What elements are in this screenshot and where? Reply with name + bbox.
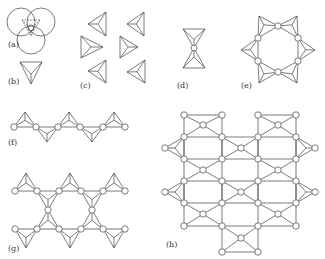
atom-node — [293, 112, 299, 118]
panel-g-ladder — [12, 173, 128, 248]
sphere-bottom — [17, 26, 45, 54]
atom-node — [295, 58, 301, 64]
label-g: (g) — [8, 245, 19, 253]
atom-node — [12, 226, 18, 232]
atom-node — [122, 124, 128, 130]
label-d: (d) — [177, 82, 188, 90]
tetrahedron — [103, 112, 125, 127]
atom-node — [219, 156, 225, 162]
atom-node — [219, 200, 225, 206]
atom-node — [219, 134, 225, 140]
atom-node — [238, 145, 244, 151]
atom-node — [200, 167, 206, 173]
panel-h-sheet — [162, 112, 318, 255]
atom-node — [122, 188, 128, 194]
tetrahedron — [103, 229, 125, 248]
atom-node — [33, 124, 39, 130]
atom-node — [275, 211, 281, 217]
atom-node — [78, 226, 84, 232]
tetrahedron — [88, 12, 106, 36]
atom-node — [122, 226, 128, 232]
tetrahedron — [81, 36, 103, 58]
atom-node — [255, 200, 261, 206]
tetrahedron — [127, 12, 144, 36]
atom-node — [45, 207, 51, 213]
label-f: (f) — [8, 139, 17, 147]
tetrahedron — [120, 36, 138, 58]
atom-node — [295, 35, 301, 41]
tetrahedron — [14, 112, 36, 127]
atom-node — [293, 156, 299, 162]
atom-node — [293, 134, 299, 140]
tetrahedron — [80, 127, 103, 142]
atom-node — [293, 178, 299, 184]
atom-node — [100, 188, 106, 194]
atom-node — [255, 223, 261, 229]
tetrahedra-diagram — [0, 0, 325, 259]
atom-node — [181, 178, 187, 184]
atom-node — [100, 124, 106, 130]
atom-node — [255, 112, 261, 118]
atom-node — [56, 226, 62, 232]
atom-node — [312, 189, 318, 195]
atom-node — [219, 223, 225, 229]
atom-node — [275, 122, 281, 128]
atom-node — [181, 156, 187, 162]
atom-node — [181, 223, 187, 229]
atom-node — [293, 200, 299, 206]
tetrahedron — [103, 173, 125, 191]
atom-node — [255, 58, 261, 64]
atom-node — [34, 226, 40, 232]
atom-node — [162, 145, 168, 151]
atom-node — [255, 178, 261, 184]
atom-node — [77, 124, 83, 130]
atom-node — [238, 235, 244, 241]
atom-node — [200, 122, 206, 128]
panel-c-isolated-tetrahedra — [81, 12, 145, 83]
tetrahedron — [58, 112, 80, 127]
panel-e-six-ring — [241, 16, 315, 83]
panel-f-chain — [11, 112, 128, 142]
atom-node — [293, 223, 299, 229]
atom-node — [181, 134, 187, 140]
label-e: (e) — [241, 82, 252, 90]
tetrahedron — [59, 173, 81, 191]
panel-b-tetrahedron — [20, 62, 42, 84]
tetrahedron — [36, 127, 58, 142]
label-b: (b) — [8, 78, 19, 86]
atom-node — [56, 188, 62, 194]
atom-node — [200, 211, 206, 217]
atom-node — [255, 134, 261, 140]
atom-node — [238, 189, 244, 195]
atom-node — [275, 23, 281, 29]
tetrahedron — [59, 229, 81, 248]
atom-node — [78, 188, 84, 194]
tetrahedron — [241, 38, 258, 61]
atom-node — [275, 167, 281, 173]
atom-node — [255, 35, 261, 41]
tetrahedron — [20, 62, 42, 84]
atom-node — [100, 226, 106, 232]
atom-node — [219, 178, 225, 184]
atom-node — [12, 188, 18, 194]
atom-node — [312, 145, 318, 151]
atom-node — [255, 156, 261, 162]
atom-node — [219, 112, 225, 118]
label-a: (a) — [8, 41, 19, 49]
atom-node — [34, 188, 40, 194]
atom-node — [89, 207, 95, 213]
tetrahedron — [88, 60, 106, 83]
atom-node — [255, 249, 261, 255]
atom-node — [181, 200, 187, 206]
atom-node — [11, 124, 17, 130]
tetrahedron — [127, 60, 145, 83]
atom-node — [55, 124, 61, 130]
atom-node — [162, 189, 168, 195]
label-h: (h) — [166, 241, 177, 249]
tetrahedron — [298, 38, 315, 61]
atom-node — [219, 249, 225, 255]
atom-node — [181, 112, 187, 118]
hidden-edges — [22, 20, 40, 36]
label-c: (c) — [80, 82, 91, 90]
atom-node — [191, 45, 197, 51]
